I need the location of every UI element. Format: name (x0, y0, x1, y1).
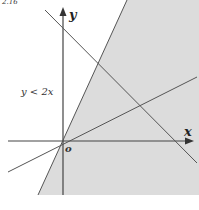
shaded-region (38, 0, 199, 195)
y-axis-label: y (68, 7, 78, 22)
figure-title-fragment: 2.16 (1, 0, 18, 6)
x-axis-label: x (183, 124, 192, 139)
y-axis-arrow-icon (60, 7, 67, 16)
region-label: y < 2x (20, 86, 54, 97)
inequality-diagram: y x o y < 2x 2.16 (0, 0, 199, 210)
origin-label: o (65, 143, 72, 154)
